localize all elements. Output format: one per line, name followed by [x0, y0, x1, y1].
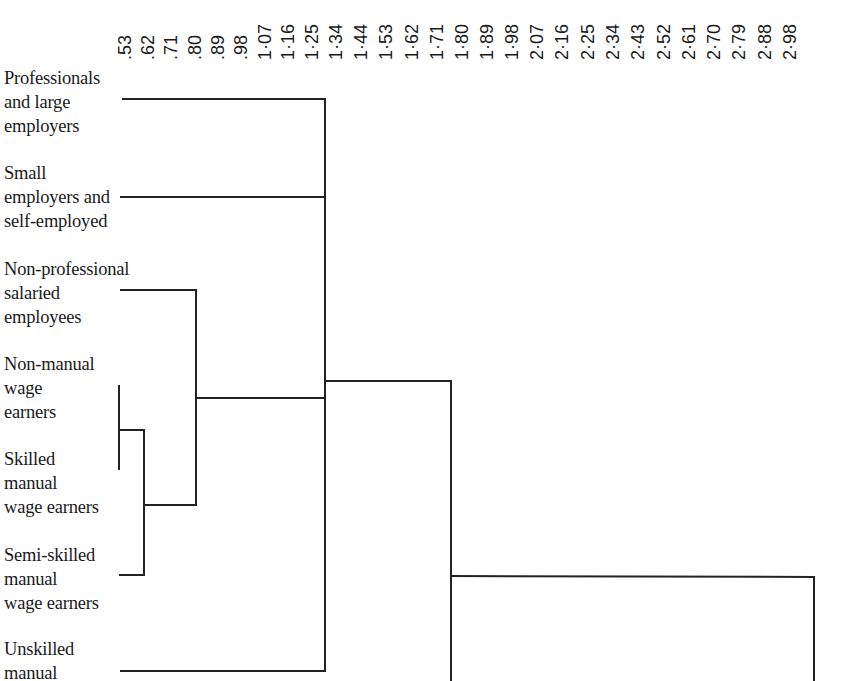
branch-1-71-cluster: [451, 576, 815, 577]
dendrogram-tree: [0, 0, 858, 681]
